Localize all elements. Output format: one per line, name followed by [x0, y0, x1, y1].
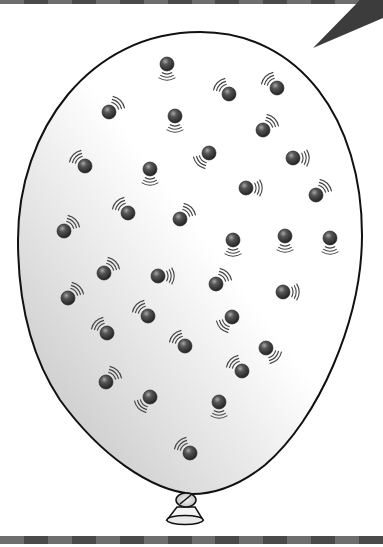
particle-ball-icon — [270, 81, 284, 95]
band-segment — [120, 536, 144, 544]
particle-ball-icon — [121, 206, 135, 220]
band-segment — [24, 536, 48, 544]
particle-ball-icon — [225, 310, 239, 324]
particle-ball-icon — [222, 87, 236, 101]
particle-ball-icon — [256, 123, 270, 137]
band-segment — [144, 536, 168, 544]
balloon-body — [18, 32, 362, 494]
band-segment — [72, 536, 96, 544]
band-segment — [96, 536, 120, 544]
particle-ball-icon — [151, 269, 165, 283]
particle-ball-icon — [309, 188, 323, 202]
particle-ball-icon — [143, 390, 157, 404]
band-segment — [287, 536, 311, 544]
particle-ball-icon — [97, 266, 111, 280]
particle-ball-icon — [286, 151, 300, 165]
particle-ball-icon — [278, 229, 292, 243]
band-segment — [168, 536, 192, 544]
particle-ball-icon — [183, 446, 197, 460]
particle-ball-icon — [78, 159, 92, 173]
particle-ball-icon — [143, 162, 157, 176]
particle-ball-icon — [160, 57, 174, 71]
band-segment — [263, 536, 287, 544]
bottom-decorative-band — [0, 536, 383, 544]
band-segment — [48, 536, 72, 544]
particle-ball-icon — [61, 291, 75, 305]
particle-ball-icon — [209, 277, 223, 291]
balloon-illustration — [0, 0, 383, 547]
band-segment — [192, 536, 216, 544]
particle-ball-icon — [99, 375, 113, 389]
band-segment — [215, 536, 239, 544]
band-segment — [311, 536, 335, 544]
particle-ball-icon — [173, 212, 187, 226]
particle-ball-icon — [178, 339, 192, 353]
particle-ball-icon — [235, 364, 249, 378]
particle-ball-icon — [141, 309, 155, 323]
particle-ball-icon — [202, 146, 216, 160]
band-segment — [239, 536, 263, 544]
particle-ball-icon — [276, 285, 290, 299]
particle-ball-icon — [100, 326, 114, 340]
particle-ball-icon — [102, 105, 116, 119]
pointer-triangle — [313, 0, 383, 48]
particle-ball-icon — [226, 233, 240, 247]
particle-ball-icon — [168, 109, 182, 123]
particle-ball-icon — [323, 231, 337, 245]
particle-ball-icon — [57, 224, 71, 238]
band-segment — [0, 536, 24, 544]
particle-ball-icon — [239, 181, 253, 195]
band-segment — [335, 536, 359, 544]
band-segment — [359, 536, 383, 544]
particle-ball-icon — [259, 341, 273, 355]
particle-ball-icon — [212, 395, 226, 409]
balloon-knot — [167, 493, 203, 525]
